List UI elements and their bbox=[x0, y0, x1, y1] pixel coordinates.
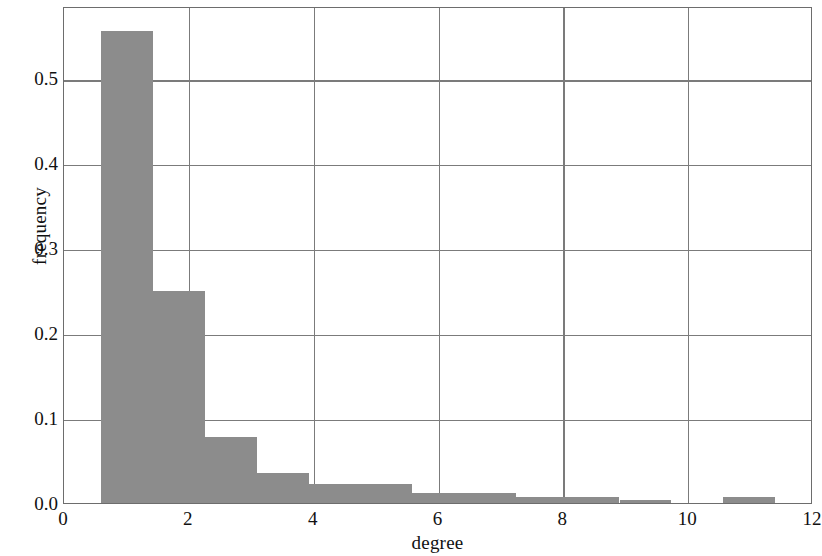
x-tick-label: 2 bbox=[168, 508, 208, 530]
x-axis-label: degree bbox=[63, 532, 812, 554]
x-tick-label: 6 bbox=[418, 508, 458, 530]
x-tick-label: 12 bbox=[792, 508, 822, 530]
x-tick-label: 8 bbox=[542, 508, 582, 530]
x-tick-label: 0 bbox=[43, 508, 83, 530]
x-tick-label: 4 bbox=[293, 508, 333, 530]
x-axis-tick-labels: 024681012 bbox=[0, 0, 822, 556]
histogram-figure: frequency 0.00.10.20.30.40.5 024681012 d… bbox=[0, 0, 822, 556]
x-tick-label: 10 bbox=[667, 508, 707, 530]
